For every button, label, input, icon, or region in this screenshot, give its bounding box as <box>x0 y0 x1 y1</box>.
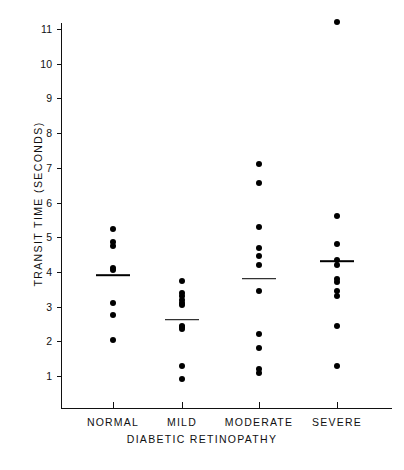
y-axis-tick-label: 9 <box>30 93 52 103</box>
data-point <box>256 245 262 251</box>
data-point <box>179 326 185 332</box>
data-point <box>256 331 262 337</box>
y-axis-tick-mark <box>57 133 62 134</box>
data-point <box>110 300 116 306</box>
mean-line <box>242 278 276 280</box>
data-point <box>256 161 262 167</box>
data-point <box>256 345 262 351</box>
y-axis-tick-label: 5 <box>30 232 52 242</box>
data-point <box>256 288 262 294</box>
data-point <box>179 363 185 369</box>
data-point <box>334 363 340 369</box>
y-axis-tick-label: 2 <box>30 336 52 346</box>
y-axis-tick-mark <box>57 272 62 273</box>
data-point <box>334 323 340 329</box>
data-point <box>110 267 116 273</box>
y-axis-tick-mark <box>57 29 62 30</box>
y-axis-tick-label: 1 <box>30 371 52 381</box>
scatter-plot-figure: TRANSIT TIME (SECONDS) 1234567891011 NOR… <box>0 0 404 470</box>
x-axis-category-label-moderate: MODERATE <box>225 416 293 428</box>
data-point <box>256 180 262 186</box>
x-axis-line <box>61 408 392 409</box>
data-point <box>256 253 262 259</box>
data-point <box>110 243 116 249</box>
data-point <box>179 376 185 382</box>
y-axis-tick-label: 4 <box>30 267 52 277</box>
y-axis-tick-label: 8 <box>30 128 52 138</box>
data-point <box>334 213 340 219</box>
x-axis-category-label-normal: NORMAL <box>87 416 139 428</box>
data-point <box>256 370 262 376</box>
y-axis-tick-label: 6 <box>30 198 52 208</box>
data-point <box>256 262 262 268</box>
data-point <box>334 241 340 247</box>
y-axis-tick-label: 3 <box>30 302 52 312</box>
data-point <box>334 293 340 299</box>
data-point <box>179 302 185 308</box>
x-axis-tick-mark <box>259 402 260 408</box>
data-point <box>179 278 185 284</box>
y-axis-tick-mark <box>57 307 62 308</box>
data-point <box>334 279 340 285</box>
x-axis-title: DIABETIC RETINOPATHY <box>0 433 404 445</box>
data-point <box>110 312 116 318</box>
x-axis-tick-mark <box>337 402 338 408</box>
y-axis-tick-label: 7 <box>30 163 52 173</box>
y-axis-tick-mark <box>57 64 62 65</box>
y-axis-tick-mark <box>57 237 62 238</box>
y-axis-tick-mark <box>57 203 62 204</box>
y-axis-tick-mark <box>57 168 62 169</box>
y-axis-tick-label: 10 <box>30 59 52 69</box>
data-point <box>256 224 262 230</box>
mean-line <box>96 275 130 277</box>
data-point <box>334 19 340 25</box>
y-axis-tick-mark <box>57 376 62 377</box>
y-axis-tick-mark <box>57 341 62 342</box>
x-axis-tick-mark <box>113 402 114 408</box>
x-axis-category-label-severe: SEVERE <box>312 416 362 428</box>
y-axis-tick-label: 11 <box>30 24 52 34</box>
x-axis-category-label-mild: MILD <box>167 416 197 428</box>
data-point <box>110 337 116 343</box>
y-axis-tick-mark <box>57 98 62 99</box>
x-axis-tick-mark <box>182 402 183 408</box>
mean-line <box>320 261 354 263</box>
data-point <box>110 226 116 232</box>
y-axis-line <box>61 23 62 408</box>
mean-line <box>165 319 199 321</box>
data-point <box>334 262 340 268</box>
